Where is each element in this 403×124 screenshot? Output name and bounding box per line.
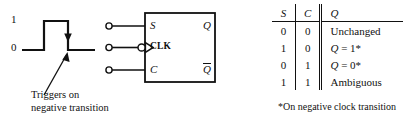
- table-row: 0 0 Unchanged: [272, 22, 403, 40]
- flipflop-output-label-q: Q: [203, 20, 211, 31]
- cell-s: 0: [272, 56, 296, 73]
- figure-root: 1 0 Triggers on negative transition: [0, 0, 403, 124]
- cell-s: 1: [272, 39, 296, 56]
- cell-q: Ambiguous: [321, 73, 403, 90]
- input-terminal-s: [106, 23, 112, 29]
- cell-q-text: Unchanged: [330, 25, 380, 37]
- flipflop-output-label-qbar: Q: [203, 64, 211, 75]
- cell-s: 1: [272, 73, 296, 90]
- truth-table-header-q: Q: [321, 4, 403, 22]
- truth-table: S C Q 0 0 Unchanged 1 0 Q = 1* 0: [272, 4, 403, 90]
- cell-q-text: = 1*: [338, 42, 361, 54]
- truth-table-header-c: C: [296, 4, 321, 22]
- truth-table-footnote: *On negative clock transition: [278, 101, 396, 112]
- clk-inversion-bubble-icon: [138, 44, 145, 51]
- flipflop-graphic: [100, 0, 265, 124]
- cell-q: Q = 0*: [321, 56, 403, 73]
- cell-q-text: = 0*: [338, 59, 361, 71]
- flipflop-input-label-clk: CLK: [150, 42, 171, 52]
- flipflop-input-label-s: S: [150, 20, 156, 31]
- flipflop-input-label-c: C: [150, 64, 157, 75]
- cell-q-text: Ambiguous: [330, 76, 381, 88]
- cell-c: 1: [296, 73, 321, 90]
- cell-q: Unchanged: [321, 22, 403, 40]
- negative-edge-arrow-icon: [64, 34, 72, 43]
- table-row: 0 1 Q = 0*: [272, 56, 403, 73]
- cell-c: 0: [296, 39, 321, 56]
- flipflop-symbol-panel: S CLK C Q Q: [100, 0, 265, 124]
- truth-table-header-row: S C Q: [272, 4, 403, 22]
- input-terminal-c: [106, 67, 112, 73]
- qbar-overbar-text: Q: [203, 64, 211, 75]
- cell-c: 1: [296, 56, 321, 73]
- cell-q: Q = 1*: [321, 39, 403, 56]
- table-row: 1 0 Q = 1*: [272, 39, 403, 56]
- clock-pulse-trace: [22, 21, 95, 50]
- cell-s: 0: [272, 22, 296, 40]
- input-terminal-clk: [106, 44, 112, 50]
- table-row: 1 1 Ambiguous: [272, 73, 403, 90]
- truth-table-header-s: S: [272, 4, 296, 22]
- cell-c: 0: [296, 22, 321, 40]
